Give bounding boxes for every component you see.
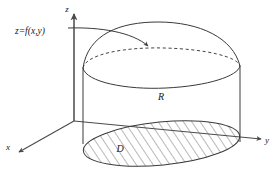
region-D-hatched-ellipse	[81, 115, 241, 173]
y-axis-label: y	[264, 135, 269, 145]
surface-annotation-arrow	[68, 28, 148, 46]
top-ellipse-front-solid	[83, 66, 240, 88]
solid-region-diagram: z x y z=f(x,y) R D	[0, 0, 275, 173]
x-axis-label: x	[5, 142, 10, 152]
base-region-D	[81, 115, 241, 173]
solid-region-label: R	[157, 91, 164, 102]
figure-container: z x y z=f(x,y) R D	[0, 0, 275, 173]
top-ellipse-back-dashed	[83, 48, 240, 68]
surface-z-equals-f	[83, 22, 240, 68]
surface-equation-label: z=f(x,y)	[14, 26, 45, 37]
base-region-label: D	[115, 143, 124, 154]
z-axis-label: z	[64, 4, 69, 14]
x-axis	[19, 121, 74, 152]
